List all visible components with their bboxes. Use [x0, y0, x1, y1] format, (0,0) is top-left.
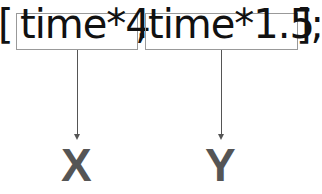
arg2-text: time*1.5	[148, 0, 314, 48]
label-y: Y	[205, 140, 236, 190]
arg1-text: time*4	[20, 0, 150, 48]
label-x: X	[61, 140, 92, 190]
close-bracket-semicolon: ];	[296, 0, 322, 48]
arrow-line-y	[221, 50, 222, 136]
open-bracket: [	[0, 0, 13, 48]
arrow-line-x	[77, 50, 78, 136]
